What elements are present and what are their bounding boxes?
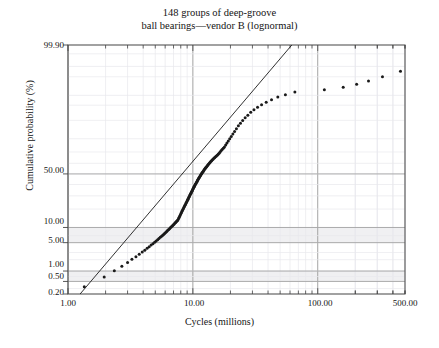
shaded-band (68, 227, 405, 242)
data-point (233, 130, 236, 133)
data-point (113, 269, 116, 272)
data-point (130, 258, 133, 261)
data-point (237, 124, 240, 127)
data-point (355, 83, 358, 86)
data-point (235, 127, 238, 130)
data-point (138, 253, 141, 256)
data-point (249, 111, 252, 114)
data-point (293, 91, 296, 94)
data-point (276, 96, 279, 99)
data-point (120, 265, 123, 268)
data-point (265, 101, 268, 104)
data-point (284, 93, 287, 96)
data-point (244, 116, 247, 119)
data-point (83, 285, 86, 288)
data-point (260, 103, 263, 106)
data-point (270, 98, 273, 101)
plot-canvas (0, 0, 439, 348)
data-point (239, 122, 242, 125)
data-point (256, 106, 259, 109)
data-point (126, 261, 129, 264)
data-point (399, 70, 402, 73)
data-point (231, 133, 234, 136)
data-point (323, 88, 326, 91)
data-point (342, 86, 345, 89)
data-point (367, 79, 370, 82)
data-point (134, 255, 137, 258)
data-point (246, 114, 249, 117)
reference-line (80, 45, 292, 294)
data-point (103, 275, 106, 278)
data-point (241, 119, 244, 122)
probability-plot-figure: 148 groups of deep-groove ball bearings—… (0, 0, 439, 348)
data-point (141, 251, 144, 254)
data-point (381, 75, 384, 78)
plot-frame (68, 45, 405, 294)
data-point (252, 108, 255, 111)
